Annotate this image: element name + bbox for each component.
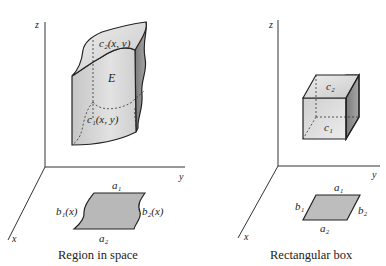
solid-label-e: E	[107, 71, 116, 85]
top-surface-label: c₂(x, y)	[99, 37, 131, 50]
left-panel: z y x c₂(x, y) E c₁(x, y) a₁ a₂ b₁(x) b₂…	[8, 19, 185, 262]
base-right-edge-label: b₂(x)	[142, 205, 164, 218]
x-axis-label: x	[11, 233, 17, 244]
right-panel: z y x c₂ c₁ a₁ a₂ b₁ b₂ Rectangular box	[238, 19, 380, 262]
x-axis	[238, 166, 278, 238]
y-axis-label: y	[178, 171, 184, 182]
base-top-edge-label: a₁	[334, 181, 344, 193]
box-top-label: c₂	[326, 80, 335, 92]
x-axis-label: x	[243, 231, 249, 242]
base-left-edge-label: b₁	[295, 200, 305, 212]
z-axis-label: z	[268, 19, 273, 30]
z-axis-label: z	[34, 19, 39, 30]
bottom-surface-label: c₁(x, y)	[87, 113, 119, 126]
y-axis-label: y	[371, 169, 377, 180]
base-bottom-edge-label: a₂	[99, 232, 109, 244]
figure: z y x c₂(x, y) E c₁(x, y) a₁ a₂ b₁(x) b₂…	[0, 0, 386, 266]
base-bottom-edge-label: a₂	[320, 222, 330, 234]
box-bottom-label: c₁	[324, 121, 333, 133]
base-left-edge-label: b₁(x)	[56, 205, 78, 218]
base-rectangle	[303, 195, 360, 220]
right-caption: Rectangular box	[270, 248, 353, 262]
x-axis	[8, 167, 45, 240]
base-right-edge-label: b₂	[358, 204, 368, 216]
base-top-edge-label: a₁	[112, 179, 122, 191]
left-caption: Region in space	[58, 248, 138, 262]
base-region	[74, 193, 145, 229]
